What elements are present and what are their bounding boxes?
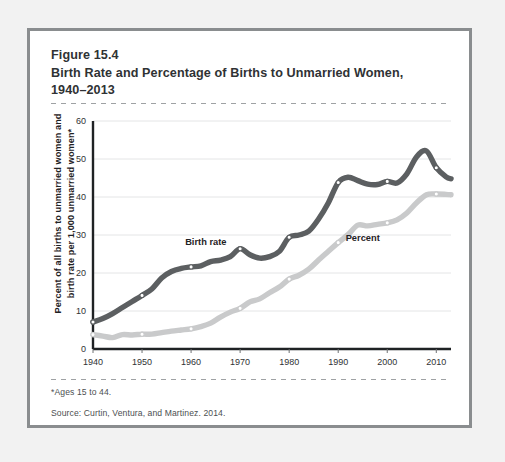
y-tick-label: 20 [76, 268, 86, 278]
chart-plot-area: Percent of all births to unmarried women… [30, 109, 475, 371]
line-chart: 0102030405060194019501960197019801990200… [30, 109, 475, 371]
x-tick-label: 2000 [377, 357, 397, 367]
figure-title-block: Figure 15.4 Birth Rate and Percentage of… [51, 47, 451, 100]
data-point-marker [140, 293, 144, 297]
x-tick-label: 1980 [279, 357, 299, 367]
divider-top [51, 103, 451, 104]
data-point-marker [238, 306, 242, 310]
figure-number: Figure 15.4 [51, 47, 451, 65]
figure-title-line-2: 1940–2013 [51, 82, 451, 100]
data-point-marker [287, 235, 291, 239]
series-label-percent: Percent [346, 233, 380, 243]
y-tick-label: 0 [81, 344, 86, 354]
data-point-marker [189, 327, 193, 331]
figure-title-line-1: Birth Rate and Percentage of Births to U… [51, 65, 451, 83]
x-tick-label: 1970 [230, 357, 250, 367]
x-tick-label: 1940 [83, 357, 103, 367]
series-line-birth-rate [93, 151, 451, 322]
data-point-marker [91, 320, 95, 324]
x-tick-label: 2010 [426, 357, 446, 367]
y-tick-label: 10 [76, 306, 86, 316]
data-point-marker [287, 277, 291, 281]
data-point-marker [336, 241, 340, 245]
y-tick-label: 60 [76, 116, 86, 126]
x-tick-label: 1950 [132, 357, 152, 367]
data-point-marker [238, 247, 242, 251]
data-point-marker [140, 332, 144, 336]
figure-source: Source: Curtin, Ventura, and Martinez. 2… [51, 408, 225, 418]
data-point-marker [91, 332, 95, 336]
data-point-marker [336, 180, 340, 184]
y-tick-label: 50 [76, 154, 86, 164]
series-line-percent [93, 194, 451, 338]
y-tick-label: 40 [76, 192, 86, 202]
data-point-marker [189, 265, 193, 269]
figure-card: Figure 15.4 Birth Rate and Percentage of… [27, 28, 472, 428]
figure-page: Figure 15.4 Birth Rate and Percentage of… [0, 0, 505, 462]
x-tick-label: 1960 [181, 357, 201, 367]
divider-middle [51, 379, 451, 380]
figure-footnote: *Ages 15 to 44. [51, 387, 111, 397]
data-point-marker [434, 192, 438, 196]
data-point-marker [385, 179, 389, 183]
y-tick-label: 30 [76, 230, 86, 240]
data-point-marker [385, 221, 389, 225]
x-tick-label: 1990 [328, 357, 348, 367]
series-label-birth-rate: Birth rate [185, 237, 226, 247]
data-point-marker [434, 166, 438, 170]
